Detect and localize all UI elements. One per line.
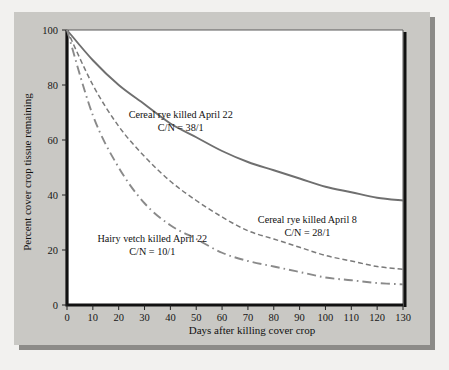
x-tick-label: 10 [88, 312, 99, 323]
y-tick-label: 0 [53, 300, 58, 311]
series-label-2-name: Cereal rye killed April 8 [258, 214, 357, 225]
x-tick-label: 90 [294, 312, 305, 323]
x-axis-ticks: 0102030405060708090100110120130 [64, 305, 411, 323]
x-tick-label: 40 [165, 312, 176, 323]
x-tick-label: 80 [269, 312, 280, 323]
series-label-3-cn: C/N = 10/1 [129, 246, 175, 257]
x-tick-label: 20 [113, 312, 124, 323]
y-axis-ticks: 020406080100 [42, 25, 67, 311]
x-tick-label: 130 [395, 312, 411, 323]
y-tick-label: 40 [48, 190, 59, 201]
series-label-2-cn: C/N = 28/1 [284, 227, 330, 238]
x-tick-label: 30 [139, 312, 150, 323]
x-tick-label: 120 [369, 312, 385, 323]
series-label-1-name: Cereal rye killed April 22 [129, 109, 233, 120]
x-tick-label: 50 [191, 312, 202, 323]
y-tick-label: 80 [48, 80, 59, 91]
series-label-3-name: Hairy vetch killed April 22 [97, 233, 207, 244]
y-tick-label: 60 [48, 135, 59, 146]
x-tick-label: 110 [344, 312, 359, 323]
x-tick-label: 60 [217, 312, 228, 323]
chart-plot-area: 0102030405060708090100110120130 02040608… [14, 12, 430, 345]
y-axis-title: Percent cover crop tissue remaining [21, 93, 33, 251]
plot-background [67, 30, 403, 305]
y-tick-label: 100 [42, 25, 58, 36]
x-tick-label: 100 [318, 312, 334, 323]
decay-line-chart: 0102030405060708090100110120130 02040608… [14, 12, 430, 345]
x-tick-label: 70 [243, 312, 254, 323]
series-label-1-cn: C/N = 38/1 [158, 122, 204, 133]
x-axis-title: Days after killing cover crop [189, 324, 316, 336]
x-tick-label: 0 [64, 312, 69, 323]
figure-panel: 0102030405060708090100110120130 02040608… [14, 12, 430, 345]
y-tick-label: 20 [48, 245, 59, 256]
